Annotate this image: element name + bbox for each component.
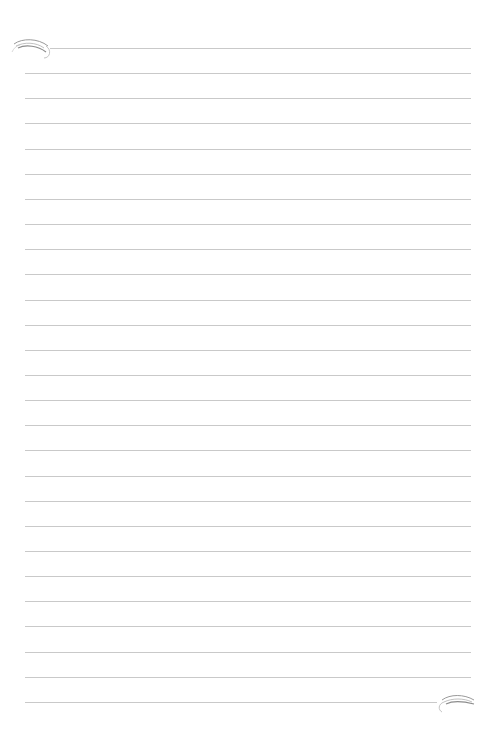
ruled-line — [25, 551, 471, 552]
ruled-line — [25, 425, 471, 426]
ruled-line — [25, 375, 471, 376]
ruled-line — [25, 325, 471, 326]
ruled-line — [25, 652, 471, 653]
top-left-flourish-icon — [8, 34, 52, 62]
ruled-line — [25, 476, 471, 477]
ruled-line — [25, 677, 471, 678]
bottom-right-flourish-icon — [436, 690, 480, 716]
ruled-line — [25, 450, 471, 451]
ruled-line — [25, 73, 471, 74]
ruled-line — [25, 249, 471, 250]
ruled-line — [25, 300, 471, 301]
ruled-line — [25, 501, 471, 502]
ruled-line — [25, 350, 471, 351]
ruled-line — [25, 98, 471, 99]
ruled-line — [25, 123, 471, 124]
ruled-line — [25, 400, 471, 401]
ruled-line — [25, 224, 471, 225]
ruled-line — [50, 48, 471, 49]
ruled-line — [25, 626, 471, 627]
ruled-line — [25, 174, 471, 175]
ruled-line — [25, 702, 437, 703]
ruled-line — [25, 199, 471, 200]
ruled-line — [25, 576, 471, 577]
ruled-line — [25, 149, 471, 150]
ruled-line — [25, 601, 471, 602]
ruled-line — [25, 274, 471, 275]
ruled-line — [25, 526, 471, 527]
lined-paper-page — [0, 0, 496, 738]
